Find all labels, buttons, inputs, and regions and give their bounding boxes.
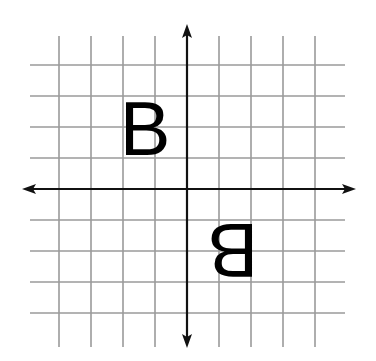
coordinate-plane: B B (0, 0, 376, 361)
axes (22, 24, 356, 348)
letter-b-rotated: B (208, 208, 259, 293)
letter-b-original: B (120, 86, 171, 171)
